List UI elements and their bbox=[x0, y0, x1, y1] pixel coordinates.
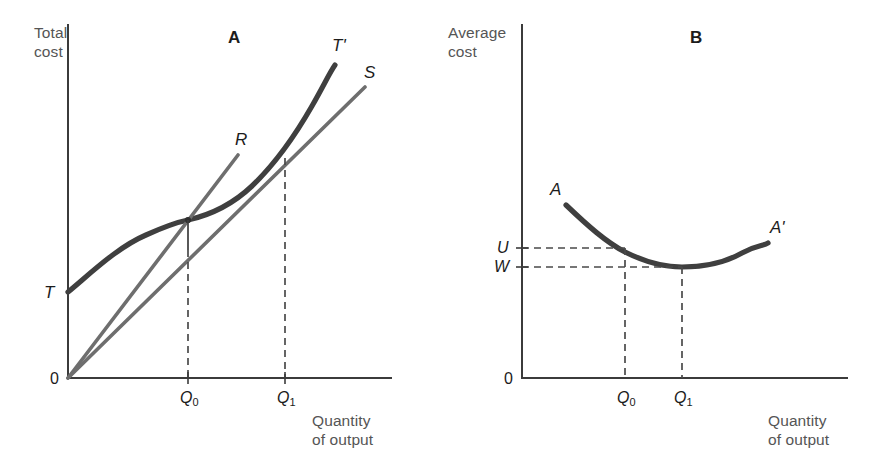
panel-b-letter: B bbox=[690, 28, 702, 49]
panel-a-graphics bbox=[68, 24, 392, 384]
panel-a-q0-label: Q0 bbox=[180, 388, 199, 408]
panel-a-y-axis-title-line2: cost bbox=[34, 43, 67, 62]
economics-cost-curves-figure: Total cost A T' S R T 0 Q0 Q1 Quantity o… bbox=[0, 0, 871, 472]
panel-a-ray-s-label: S bbox=[364, 63, 375, 84]
panel-a-x-axis-title: Quantity of output bbox=[312, 412, 373, 450]
panel-b-average-cost-curve bbox=[566, 205, 768, 267]
panel-a-ray-r-label: R bbox=[235, 130, 247, 151]
panel-a-total-cost-curve bbox=[68, 65, 335, 292]
panel-b-y-axis-title-line2: cost bbox=[448, 43, 506, 62]
panel-a-ray-r bbox=[68, 155, 238, 378]
panel-b-curve-start-label: A bbox=[550, 180, 561, 201]
panel-b-curve-end-label: A' bbox=[770, 218, 785, 239]
panel-a-y-axis-title-line1: Total bbox=[34, 24, 67, 43]
panel-b-y-axis-title: Average cost bbox=[448, 24, 506, 62]
panel-a-y-axis-title: Total cost bbox=[34, 24, 67, 62]
panel-a-q1-label-sub: 1 bbox=[289, 396, 295, 408]
panel-a-letter: A bbox=[228, 28, 240, 49]
panel-b-q1-label: Q1 bbox=[674, 388, 693, 408]
panel-a-q1-label: Q1 bbox=[277, 388, 296, 408]
panel-a-q1-label-text: Q bbox=[277, 389, 289, 406]
panel-b-graphics bbox=[516, 24, 848, 378]
panel-b-x-axis-title-line2: of output bbox=[768, 431, 829, 450]
panel-a-x-axis-title-line1: Quantity bbox=[312, 412, 373, 431]
panel-b-q0-label-text: Q bbox=[617, 389, 629, 406]
panel-a-curve-end-label: T' bbox=[332, 36, 346, 57]
panel-a-q0-label-text: Q bbox=[180, 389, 192, 406]
panel-b-level-u-label: U bbox=[497, 238, 509, 258]
panel-b-origin-label: 0 bbox=[504, 369, 513, 389]
panel-a-intercept-label: T bbox=[44, 283, 54, 304]
panel-b-level-w-label: W bbox=[494, 257, 509, 277]
panel-a-origin-label: 0 bbox=[50, 369, 59, 389]
panel-b-axes bbox=[522, 24, 848, 378]
panel-a-ray-s bbox=[68, 87, 365, 378]
panel-a-x-axis-title-line2: of output bbox=[312, 431, 373, 450]
panel-b-q0-label: Q0 bbox=[617, 388, 636, 408]
panel-b-q1-label-sub: 1 bbox=[686, 396, 692, 408]
panel-a-q0-label-sub: 0 bbox=[192, 396, 198, 408]
figure-canvas bbox=[0, 0, 871, 472]
panel-b-x-axis-title: Quantity of output bbox=[768, 412, 829, 450]
panel-b-q0-label-sub: 0 bbox=[629, 396, 635, 408]
panel-b-x-axis-title-line1: Quantity bbox=[768, 412, 829, 431]
panel-b-q1-label-text: Q bbox=[674, 389, 686, 406]
panel-b-y-axis-title-line1: Average bbox=[448, 24, 506, 43]
